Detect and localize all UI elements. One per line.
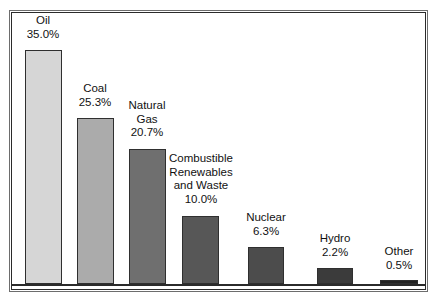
bar-label-combustible-renewables-and-waste: CombustibleRenewablesand Waste10.0%	[162, 152, 240, 206]
bar-label-other: Other0.5%	[364, 245, 434, 272]
bar-value-label: 2.2%	[300, 246, 370, 260]
bar-chart-figure: Oil35.0%Coal25.3%NaturalGas20.7%Combusti…	[0, 0, 438, 306]
bar-hydro	[317, 268, 353, 284]
bar-label-natural-gas: NaturalGas20.7%	[112, 99, 182, 140]
bar-category-line: and Waste	[162, 179, 240, 193]
plot-area: Oil35.0%Coal25.3%NaturalGas20.7%Combusti…	[0, 0, 438, 306]
bar-category-line: Combustible	[162, 152, 240, 166]
bar-value-label: 10.0%	[162, 193, 240, 207]
bar-combustible-renewables-and-waste	[182, 216, 219, 284]
x-axis-baseline	[12, 284, 425, 286]
bar-value-label: 0.5%	[364, 259, 434, 273]
bar-category-line: Gas	[112, 113, 182, 127]
bar-coal	[77, 118, 114, 284]
bar-category-line: Hydro	[300, 232, 370, 246]
bar-category-line: Nuclear	[231, 211, 301, 225]
bar-nuclear	[248, 247, 284, 284]
bar-label-oil: Oil35.0%	[8, 14, 78, 41]
bar-category-line: Coal	[60, 82, 130, 96]
bar-label-hydro: Hydro2.2%	[300, 232, 370, 259]
bar-category-line: Natural	[112, 99, 182, 113]
bar-oil	[25, 50, 62, 284]
bar-value-label: 20.7%	[112, 126, 182, 140]
bar-label-nuclear: Nuclear6.3%	[231, 211, 301, 238]
bar-category-line: Oil	[8, 14, 78, 28]
bar-value-label: 35.0%	[8, 28, 78, 42]
bar-category-line: Renewables	[162, 166, 240, 180]
bar-natural-gas	[129, 149, 166, 284]
bar-category-line: Other	[364, 245, 434, 259]
bar-value-label: 6.3%	[231, 225, 301, 239]
